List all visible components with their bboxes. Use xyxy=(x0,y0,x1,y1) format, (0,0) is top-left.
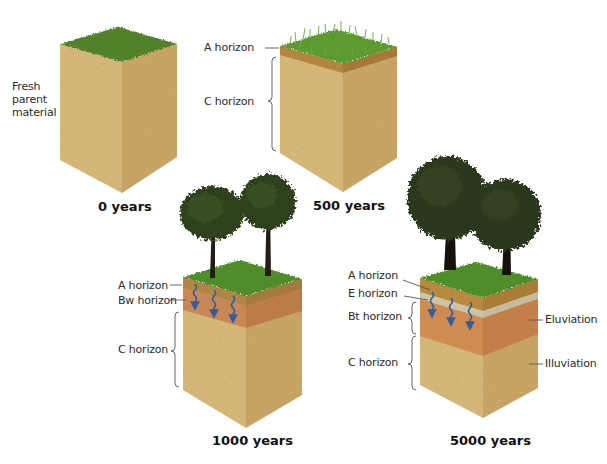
caption-5000-years: 5000 years xyxy=(450,433,531,448)
caption-500-years: 500 years xyxy=(313,198,385,213)
label-illuviation: Illuviation xyxy=(545,357,597,370)
diagram-graphics xyxy=(0,0,607,464)
label-c-horizon-5000: C horizon xyxy=(348,356,398,369)
caption-0-years: 0 years xyxy=(98,199,152,214)
soil-block-500-years xyxy=(280,21,397,192)
label-c-horizon-1000: C horizon xyxy=(118,343,168,356)
label-fresh-parent-material: Fresh parent material xyxy=(12,80,72,119)
label-a-horizon-5000: A horizon xyxy=(348,269,398,282)
soil-development-diagram: Fresh parent material 0 years A horizon … xyxy=(0,0,607,464)
label-eluviation: Eluviation xyxy=(545,313,597,326)
tree-large-right xyxy=(469,179,541,275)
label-a-horizon-1000: A horizon xyxy=(118,279,168,292)
label-bt-horizon-5000: Bt horizon xyxy=(348,310,402,323)
label-a-horizon-500: A horizon xyxy=(204,41,254,54)
label-c-horizon-500: C horizon xyxy=(204,95,254,108)
label-e-horizon-5000: E horizon xyxy=(348,287,397,300)
label-bw-horizon-1000: Bw horizon xyxy=(118,294,177,307)
tree-right xyxy=(240,174,296,276)
caption-1000-years: 1000 years xyxy=(212,433,293,448)
soil-block-1000-years xyxy=(180,174,302,428)
soil-block-0-years xyxy=(60,27,177,193)
soil-block-5000-years xyxy=(407,156,541,418)
